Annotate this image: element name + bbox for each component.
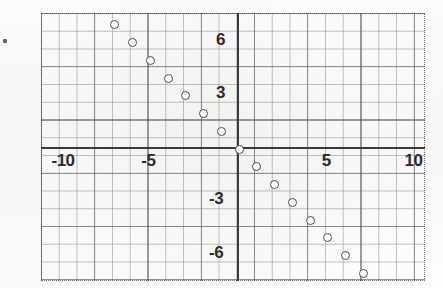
y-tick-label-6: 6 <box>216 30 225 50</box>
scanned-page: -10-551063-3-6 <box>0 0 443 288</box>
y-tick-label-neg6: -6 <box>209 243 223 263</box>
y-tick-label-3: 3 <box>216 83 225 103</box>
data-point <box>217 127 226 136</box>
data-point <box>288 198 297 207</box>
x-tick-label-5: 5 <box>322 151 331 171</box>
data-point <box>164 74 173 83</box>
data-point <box>235 145 244 154</box>
x-tick-label-neg5: -5 <box>141 151 155 171</box>
data-point <box>359 269 368 278</box>
x-tick-label-neg10: -10 <box>52 151 75 171</box>
data-point <box>199 109 208 118</box>
graph-plot-area: -10-551063-3-6 <box>41 13 425 281</box>
y-tick-label-neg3: -3 <box>209 189 223 209</box>
data-point <box>270 180 279 189</box>
data-point <box>128 38 137 47</box>
data-point <box>306 216 315 225</box>
data-point <box>341 251 350 260</box>
scan-speck-artifact <box>3 39 7 43</box>
data-point <box>146 56 155 65</box>
x-tick-label-10: 10 <box>405 151 423 171</box>
x-axis-line <box>41 147 425 149</box>
